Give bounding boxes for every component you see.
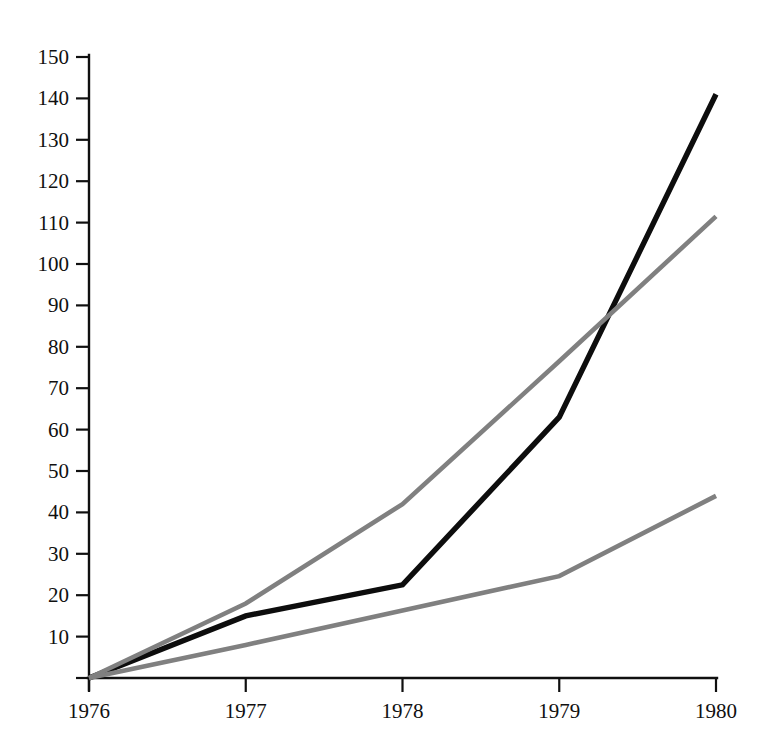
x-axis: 19761977197819791980	[68, 678, 737, 723]
y-axis: 102030405060708090100110120130140150	[38, 45, 90, 690]
chart-plot-area: 102030405060708090100110120130140150 197…	[0, 0, 770, 746]
y-tick-label: 100	[38, 252, 70, 276]
x-tick-label: 1979	[538, 699, 580, 723]
y-tick-label: 110	[38, 211, 69, 235]
y-tick-label: 150	[38, 45, 70, 69]
data-series-group	[89, 94, 716, 678]
y-tick-label: 120	[38, 169, 70, 193]
y-tick-label: 140	[38, 86, 70, 110]
y-tick-label: 40	[48, 500, 69, 524]
x-tick-label: 1976	[68, 699, 110, 723]
x-tick-label: 1980	[695, 699, 737, 723]
y-tick-label: 30	[48, 542, 69, 566]
y-tick-label: 70	[48, 376, 69, 400]
y-tick-label: 20	[48, 583, 69, 607]
line-chart: 102030405060708090100110120130140150 197…	[0, 0, 770, 746]
y-tick-label: 50	[48, 459, 69, 483]
series-line-series-black	[89, 94, 716, 678]
y-tick-label: 90	[48, 293, 69, 317]
x-tick-label: 1978	[382, 699, 424, 723]
y-tick-label: 10	[48, 625, 69, 649]
y-tick-label: 80	[48, 335, 69, 359]
y-tick-label: 60	[48, 418, 69, 442]
x-tick-label: 1977	[225, 699, 267, 723]
y-tick-label: 130	[38, 128, 70, 152]
